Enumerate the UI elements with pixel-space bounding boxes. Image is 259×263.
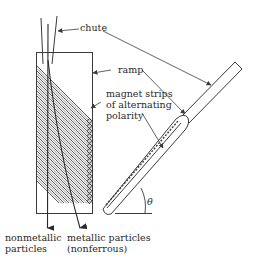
chute-side-view — [182, 62, 242, 123]
nonmetallic-trajectory — [48, 24, 49, 228]
nonmetallic-particles-label-line1: nonmetallic — [5, 232, 62, 243]
separator-diagram — [0, 0, 259, 263]
angle-theta-label: θ — [147, 196, 153, 207]
magnet-strips-label-line2: of alternating — [106, 99, 172, 110]
magnet-strips-label-line3: polarity — [106, 110, 143, 121]
ramp-side-view — [103, 115, 189, 214]
magnet-strips-front — [37, 66, 92, 204]
metallic-particles-label-line1: metallic particles — [67, 232, 151, 243]
incline-angle-arc — [141, 188, 146, 213]
chute-label: chute — [80, 22, 107, 33]
ramp-label: ramp — [118, 64, 143, 75]
magnet-strips-label-line1: magnet strips — [106, 88, 173, 99]
metallic-particles-label-line2: (nonferrous) — [67, 243, 127, 254]
chute-front-view — [41, 16, 57, 64]
nonmetallic-particles-label-line2: particles — [5, 243, 47, 254]
